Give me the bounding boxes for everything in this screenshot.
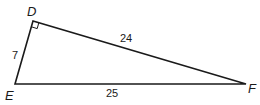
vertex-label-D: D [27,4,36,19]
side-label-DE: 7 [12,49,18,61]
side-label-EF: 25 [106,87,118,99]
side-label-DF: 24 [120,32,132,44]
triangle-DEF [15,21,246,84]
vertex-label-F: F [248,81,257,96]
triangle-diagram: D E F 7 24 25 [0,0,260,105]
vertex-label-E: E [5,88,14,103]
